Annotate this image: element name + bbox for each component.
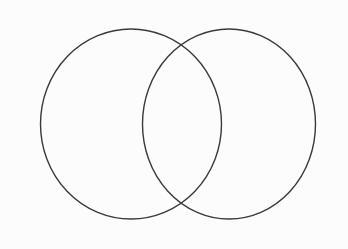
diagram-background <box>0 0 348 249</box>
venn-diagram-svg <box>0 0 348 249</box>
venn-diagram-canvas <box>0 0 348 249</box>
